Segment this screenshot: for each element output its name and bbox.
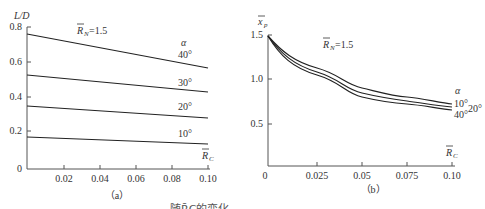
chart-a-caption: （a） [105, 190, 129, 201]
chart-a-y-tick: 0.8 [10, 21, 23, 32]
chart-a-line-label: 20° [178, 101, 192, 112]
svg-text:C: C [453, 152, 458, 160]
chart-a-y-tick: 0.4 [10, 91, 23, 102]
chart-a-line-label: 10° [178, 128, 192, 139]
chart-b-y-label: x p [257, 16, 268, 29]
chart-a-alpha-label: α [181, 37, 187, 48]
chart-a-x-tick: 0.02 [55, 173, 73, 184]
svg-text:=1.5: =1.5 [89, 25, 107, 36]
chart-b-alpha-label: α [455, 85, 461, 96]
chart-a-y-label: L/D [13, 10, 30, 21]
svg-text:x: x [257, 16, 263, 27]
chart-b-y-tick: 1.5 [251, 29, 264, 40]
chart-a-y-tick: 0.6 [10, 56, 23, 67]
chart-b: 1.5 1.0 0.5 0 0.025 0.05 0.075 0.10 x p … [251, 16, 483, 195]
chart-a-line-label: 30° [178, 77, 192, 88]
chart-a-line-label: 40° [178, 49, 192, 60]
chart-a-annotation: R N =1.5 [76, 24, 107, 38]
svg-text:=1.5: =1.5 [335, 39, 353, 50]
chart-b-x-tick: 0 [263, 170, 268, 181]
chart-b-x-label: R C [445, 146, 458, 160]
figure-caption-clipped: 随R̄C的变化 [170, 203, 370, 209]
svg-text:R: R [201, 150, 208, 161]
chart-a: 0.8 0.6 0.4 0.2 0 0.02 0.04 0.06 0.08 0.… [10, 10, 217, 201]
chart-b-line-label: 20° [468, 103, 482, 114]
svg-text:C: C [209, 155, 214, 163]
chart-b-y-tick: 0.5 [251, 118, 264, 129]
chart-b-x-tick: 0.05 [353, 170, 371, 181]
svg-text:R: R [76, 25, 83, 36]
chart-b-annotation: R N =1.5 [322, 38, 353, 52]
figure-caption: 随R̄C的变化 [170, 203, 370, 209]
chart-a-x-tick: 0.10 [199, 173, 217, 184]
figure: 0.8 0.6 0.4 0.2 0 0.02 0.04 0.06 0.08 0.… [0, 0, 485, 209]
chart-b-caption: （b） [361, 184, 386, 195]
chart-a-y-tick: 0.2 [10, 125, 23, 136]
chart-b-line-label: 40° [454, 109, 468, 120]
chart-a-x-tick: 0.06 [127, 173, 145, 184]
chart-a-x-tick: 0.04 [91, 173, 109, 184]
svg-text:p: p [263, 21, 268, 29]
chart-b-y-tick: 1.0 [251, 73, 264, 84]
chart-b-x-tick: 0.025 [306, 170, 329, 181]
chart-b-x-tick: 0.075 [396, 170, 419, 181]
svg-text:R: R [322, 39, 329, 50]
chart-b-line-label: 10° [454, 98, 468, 109]
chart-a-y-tick: 0 [17, 163, 22, 174]
chart-b-x-tick: 0.10 [443, 170, 461, 181]
chart-b-curve-10 [268, 36, 452, 104]
chart-a-x-label: R C [201, 149, 214, 163]
svg-text:R: R [445, 147, 452, 158]
chart-a-x-tick: 0.08 [163, 173, 181, 184]
